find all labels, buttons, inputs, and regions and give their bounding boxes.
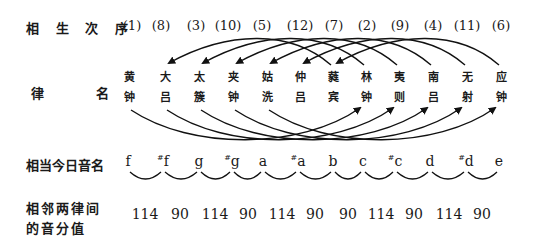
note-name: b [329, 153, 338, 169]
cents-label-line2: 的音分值 [26, 218, 86, 237]
note-name: #g [224, 153, 240, 169]
cent-value: 90 [405, 206, 423, 222]
note-name: a [259, 153, 267, 169]
upper-arc-arrow [337, 38, 499, 65]
upper-arc-arrow [237, 38, 397, 65]
note-letter: b [329, 153, 338, 169]
interval-slur [201, 172, 230, 179]
note-letter: g [195, 153, 204, 169]
note-name: #f [157, 153, 169, 169]
note-letter: c [394, 153, 402, 169]
note-letter: d [465, 153, 474, 169]
cent-value: 90 [306, 206, 324, 222]
sharp-sign: # [458, 153, 465, 162]
sharp-sign: # [290, 153, 297, 162]
cent-value: 114 [202, 206, 229, 222]
note-letter: f [164, 153, 169, 169]
cent-value: 114 [269, 206, 296, 222]
note-letter: a [259, 153, 267, 169]
note-name: #c [388, 153, 403, 169]
interval-slur [265, 172, 296, 179]
interval-slur [432, 172, 464, 179]
lower-arc-arrow [269, 108, 495, 140]
note-name: f [125, 153, 130, 169]
note-name: #a [290, 153, 305, 169]
note-name: c [359, 153, 367, 169]
note-name: g [195, 153, 204, 169]
cents-label-line1: 相邻两律间 [26, 198, 101, 217]
cent-value: 90 [473, 206, 491, 222]
note-letter: c [359, 153, 367, 169]
cent-value: 114 [368, 206, 395, 222]
cent-value: 114 [132, 206, 159, 222]
cent-value: 90 [339, 206, 357, 222]
sharp-sign: # [388, 153, 395, 162]
note-name: e [495, 153, 503, 169]
sharp-sign: # [157, 153, 164, 162]
cent-value: 90 [239, 206, 257, 222]
cent-value: 90 [171, 206, 189, 222]
interval-slur [397, 172, 428, 179]
note-letter: e [495, 153, 503, 169]
sharp-sign: # [224, 153, 231, 162]
modern-note-label: 相当今日音名 [26, 155, 104, 174]
interval-slur [300, 172, 331, 179]
interval-slur [165, 172, 197, 179]
interval-slur [468, 172, 497, 179]
note-letter: d [426, 153, 435, 169]
cent-value: 114 [436, 206, 463, 222]
note-letter: g [231, 153, 240, 169]
interval-slur [335, 172, 361, 179]
interval-slur [234, 172, 261, 179]
note-letter: f [125, 153, 130, 169]
note-name: #d [458, 153, 474, 169]
upper-arc-arrow [304, 38, 465, 65]
note-letter: a [297, 153, 305, 169]
interval-slur [130, 172, 161, 179]
upper-arc-arrow [271, 38, 431, 65]
interval-slur [365, 172, 393, 179]
note-name: d [426, 153, 435, 169]
